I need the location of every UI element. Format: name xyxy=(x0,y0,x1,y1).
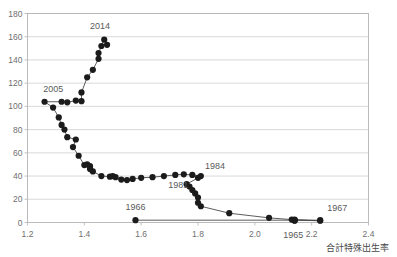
data-point xyxy=(64,99,70,105)
data-point xyxy=(317,217,323,223)
data-point xyxy=(90,67,96,73)
data-point xyxy=(50,104,56,110)
annotation-1984: 1984 xyxy=(205,161,225,171)
y-axis-tick-labels: 020406080100120140160180 xyxy=(8,9,22,228)
y-tick-label: 40 xyxy=(13,171,23,181)
chart-canvas: 020406080100120140160180 1.21.41.61.82.0… xyxy=(0,0,397,257)
plot-frame xyxy=(28,14,369,223)
data-point xyxy=(226,210,232,216)
data-point xyxy=(189,172,195,178)
data-point xyxy=(132,217,138,223)
y-tick-label: 160 xyxy=(8,32,22,42)
chart-annotations: 2014200519811984196619671965 xyxy=(43,21,347,240)
data-point xyxy=(84,74,90,80)
data-point xyxy=(107,174,113,180)
data-point xyxy=(124,177,130,183)
x-tick-label: 1.4 xyxy=(78,229,90,239)
data-point xyxy=(161,173,167,179)
x-tick-label: 2.2 xyxy=(306,229,318,239)
x-tick-label: 2.0 xyxy=(249,229,261,239)
data-point xyxy=(98,43,104,49)
data-point xyxy=(76,153,82,159)
data-point xyxy=(292,217,298,223)
y-tick-label: 0 xyxy=(18,218,23,228)
x-axis-tick-labels: 1.21.41.61.82.02.22.4 xyxy=(22,229,375,239)
data-point xyxy=(81,162,87,168)
x-tick-label: 2.4 xyxy=(363,229,375,239)
y-tick-label: 80 xyxy=(13,125,23,135)
data-point xyxy=(59,99,65,105)
data-point xyxy=(95,50,101,56)
y-tick-label: 100 xyxy=(8,101,22,111)
y-tick-label: 180 xyxy=(8,9,22,19)
annotation-1966: 1966 xyxy=(126,202,146,212)
data-point xyxy=(104,42,110,48)
x-tick-label: 1.8 xyxy=(192,229,204,239)
data-point xyxy=(59,122,65,128)
annotation-1965: 1965 xyxy=(283,230,303,240)
annotation-2014: 2014 xyxy=(90,21,110,31)
data-point xyxy=(172,172,178,178)
series-lines xyxy=(45,40,321,221)
data-point xyxy=(95,56,101,62)
data-point xyxy=(56,114,62,120)
annotation-1967: 1967 xyxy=(327,203,347,213)
data-point xyxy=(266,215,272,221)
data-point xyxy=(41,99,47,105)
data-point xyxy=(78,89,84,95)
grid-layer xyxy=(28,14,369,200)
y-tick-label: 140 xyxy=(8,55,22,65)
y-tick-label: 60 xyxy=(13,148,23,158)
data-point xyxy=(70,144,76,150)
series-points xyxy=(41,37,323,224)
data-point xyxy=(73,97,79,103)
x-tick-label: 1.2 xyxy=(22,229,34,239)
series-line-main xyxy=(45,40,321,221)
data-point xyxy=(73,136,79,142)
data-point xyxy=(138,175,144,181)
y-tick-label: 20 xyxy=(13,194,23,204)
data-point xyxy=(130,176,136,182)
data-point xyxy=(149,174,155,180)
data-point xyxy=(118,176,124,182)
annotation-1981: 1981 xyxy=(168,180,188,190)
x-axis-title: 合計特殊出生率 xyxy=(326,242,389,253)
y-tick-label: 120 xyxy=(8,78,22,88)
data-point xyxy=(78,98,84,104)
data-point xyxy=(101,37,107,43)
data-point xyxy=(198,173,204,179)
fertility-rate-scatter-chart: 020406080100120140160180 1.21.41.61.82.0… xyxy=(0,0,397,257)
data-point xyxy=(181,171,187,177)
x-tick-label: 1.6 xyxy=(135,229,147,239)
data-point xyxy=(64,134,70,140)
annotation-2005: 2005 xyxy=(43,84,63,94)
data-point xyxy=(98,173,104,179)
